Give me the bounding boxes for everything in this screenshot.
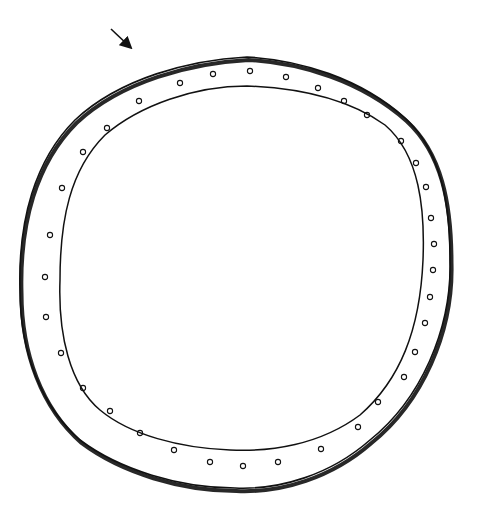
bead-holes <box>42 68 436 468</box>
bead-hole <box>210 71 215 76</box>
bead-hole <box>355 424 360 429</box>
bead-hole <box>318 446 323 451</box>
bead-hole <box>427 294 432 299</box>
bead-hole <box>413 160 418 165</box>
bead-hole <box>412 349 417 354</box>
bead-hole <box>240 463 245 468</box>
bead-hole <box>428 215 433 220</box>
bead-hole <box>207 459 212 464</box>
bead-hole <box>375 399 380 404</box>
bead-hole <box>107 408 112 413</box>
bead-hole <box>58 350 63 355</box>
bead-hole <box>431 241 436 246</box>
bead-hole <box>171 447 176 452</box>
ring-outer-shadow <box>21 60 451 491</box>
bead-hole <box>423 184 428 189</box>
bead-hole <box>47 232 52 237</box>
ring-drawing <box>0 0 479 515</box>
bead-hole <box>104 125 109 130</box>
bead-hole <box>136 98 141 103</box>
sketch-canvas <box>0 0 479 515</box>
bead-hole <box>430 267 435 272</box>
bead-hole <box>422 320 427 325</box>
bead-hole <box>275 459 280 464</box>
ring-inner-edge <box>60 86 424 450</box>
bead-hole <box>177 80 182 85</box>
bead-hole <box>401 374 406 379</box>
bead-hole <box>59 185 64 190</box>
bead-hole <box>43 314 48 319</box>
arrow-icon <box>111 29 129 46</box>
bead-hole <box>315 85 320 90</box>
bead-hole <box>80 149 85 154</box>
bead-hole <box>42 274 47 279</box>
bead-hole <box>247 68 252 73</box>
bead-hole <box>283 74 288 79</box>
ring-outer-edge <box>20 57 450 488</box>
